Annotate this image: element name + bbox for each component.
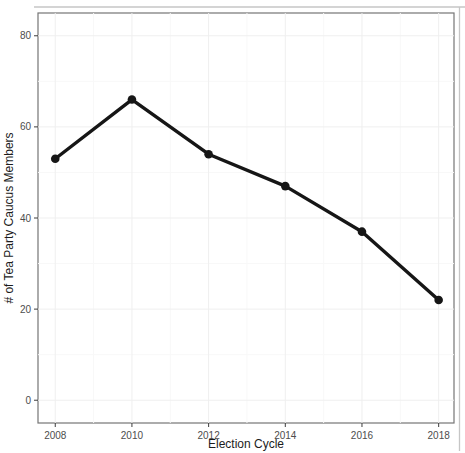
data-point <box>51 154 60 163</box>
y-tick-label: 60 <box>20 121 32 132</box>
y-tick-label: 20 <box>20 304 32 315</box>
data-point <box>204 150 213 159</box>
y-tick-label: 80 <box>20 30 32 41</box>
x-axis-title: Election Cycle <box>38 437 454 451</box>
y-tick-label: 40 <box>20 213 32 224</box>
data-point <box>128 95 137 104</box>
data-point <box>281 182 290 191</box>
data-point <box>434 296 443 305</box>
data-point <box>358 227 367 236</box>
line-chart: 020406080200820102012201420162018 <box>0 0 465 453</box>
figure: 020406080200820102012201420162018 # of T… <box>0 0 465 453</box>
y-tick-label: 0 <box>25 395 31 406</box>
y-axis-title: # of Tea Party Caucus Members <box>2 132 16 303</box>
